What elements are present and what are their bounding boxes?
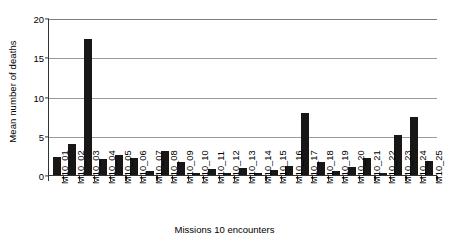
x-label-slot: M10_02 [64, 182, 80, 222]
y-tick-label-10: 10 [22, 93, 44, 102]
bar-chart: Mean number of deaths 05101520 M10_01M10… [0, 0, 449, 247]
x-label-slot: M10_22 [375, 182, 391, 222]
x-axis-tick-labels: M10_01M10_02M10_03M10_04M10_05M10_06M10_… [48, 182, 437, 222]
x-tick-label-M10_14: M10_14 [263, 150, 273, 184]
x-label-slot: M10_03 [79, 182, 95, 222]
x-label-slot: M10_19 [328, 182, 344, 222]
x-label-slot: M10_14 [250, 182, 266, 222]
x-label-slot: M10_04 [95, 182, 111, 222]
x-label-slot: M10_08 [157, 182, 173, 222]
x-tick-label-M10_01: M10_01 [60, 150, 70, 184]
y-tick-label-15: 15 [22, 54, 44, 63]
x-tick-label-M10_19: M10_19 [340, 150, 350, 184]
x-label-slot: M10_20 [344, 182, 360, 222]
x-tick-label-M10_09: M10_09 [185, 150, 195, 184]
x-tick-label-M10_22: M10_22 [387, 150, 397, 184]
x-label-slot: M10_06 [126, 182, 142, 222]
x-tick-label-M10_03: M10_03 [91, 150, 101, 184]
x-label-slot: M10_05 [110, 182, 126, 222]
x-label-slot: M10_01 [48, 182, 64, 222]
x-tick-label-M10_16: M10_16 [294, 150, 304, 184]
x-tick-label-M10_24: M10_24 [418, 150, 428, 184]
x-label-slot: M10_09 [173, 182, 189, 222]
x-tick-label-M10_06: M10_06 [138, 150, 148, 184]
x-label-slot: M10_11 [204, 182, 220, 222]
x-tick-label-M10_13: M10_13 [247, 150, 257, 184]
x-label-slot: M10_23 [390, 182, 406, 222]
x-tick-label-M10_21: M10_21 [372, 150, 382, 184]
x-label-slot: M10_13 [235, 182, 251, 222]
x-tick-label-M10_18: M10_18 [325, 150, 335, 184]
x-label-slot: M10_25 [422, 182, 438, 222]
x-axis-title: Missions 10 encounters [0, 224, 449, 235]
x-tick-label-M10_05: M10_05 [123, 150, 133, 184]
x-label-slot: M10_16 [281, 182, 297, 222]
x-label-slot: M10_12 [219, 182, 235, 222]
x-label-slot: M10_07 [141, 182, 157, 222]
x-tick-label-M10_20: M10_20 [356, 150, 366, 184]
x-label-slot: M10_21 [359, 182, 375, 222]
y-axis-title: Mean number of deaths [3, 0, 21, 182]
x-tick-label-M10_23: M10_23 [403, 150, 413, 184]
y-tick-label-5: 5 [22, 132, 44, 141]
x-tick-label-M10_17: M10_17 [309, 150, 319, 184]
x-label-slot: M10_24 [406, 182, 422, 222]
x-tick-label-M10_15: M10_15 [278, 150, 288, 184]
x-tick-label-M10_25: M10_25 [434, 150, 444, 184]
x-label-slot: M10_10 [188, 182, 204, 222]
x-label-slot: M10_17 [297, 182, 313, 222]
x-tick-label-M10_10: M10_10 [200, 150, 210, 184]
x-tick-label-M10_11: M10_11 [216, 151, 226, 184]
y-tick-label-0: 0 [22, 172, 44, 181]
x-tick-label-M10_07: M10_07 [154, 150, 164, 184]
x-tick-label-M10_12: M10_12 [231, 150, 241, 184]
y-tick-label-20: 20 [22, 15, 44, 24]
x-label-slot: M10_18 [313, 182, 329, 222]
x-tick-label-M10_08: M10_08 [169, 150, 179, 184]
x-tick-label-M10_04: M10_04 [107, 150, 117, 184]
x-tick-label-M10_02: M10_02 [76, 150, 86, 184]
x-label-slot: M10_15 [266, 182, 282, 222]
